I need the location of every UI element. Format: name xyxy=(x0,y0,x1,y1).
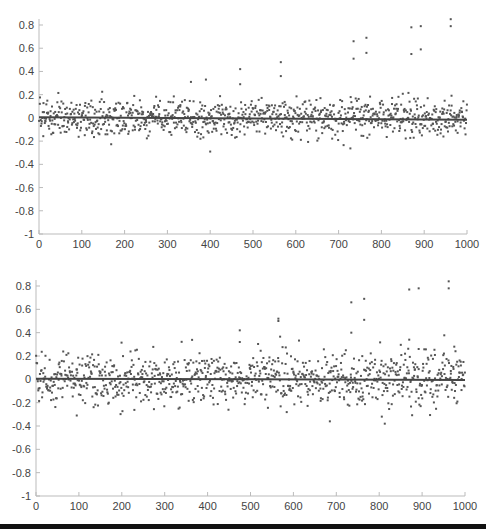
x-tick-label: 200 xyxy=(113,500,131,512)
outlier-point xyxy=(450,18,452,20)
outlier-point xyxy=(350,332,352,334)
outlier-point xyxy=(363,298,365,300)
y-tick-label: -0.4 xyxy=(12,420,31,432)
y-tick-label: 0.8 xyxy=(19,19,34,31)
data-points xyxy=(38,18,468,152)
outlier-point xyxy=(353,58,355,60)
x-tick-label: 300 xyxy=(158,238,176,250)
outlier-point xyxy=(209,151,211,153)
y-tick-label: -0.2 xyxy=(15,135,34,147)
page-bottom-border xyxy=(0,524,486,529)
outlier-point xyxy=(239,341,241,343)
y-tick-label: -1 xyxy=(21,490,31,502)
y-tick-label: -0.8 xyxy=(15,205,34,217)
x-tick-label: 600 xyxy=(284,500,302,512)
x-tick-label: 0 xyxy=(33,500,39,512)
y-tick-label: -0.6 xyxy=(15,182,34,194)
outlier-point xyxy=(329,420,331,422)
data-points xyxy=(35,280,466,424)
scatter-plot-top: 0.80.60.40.20-0.2-0.4-0.6-0.8-1010020030… xyxy=(0,0,486,262)
y-tick-label: 0.2 xyxy=(16,350,31,362)
x-tick-label: 1000 xyxy=(453,500,477,512)
y-tick-label: 0 xyxy=(28,112,34,124)
outlier-point xyxy=(410,53,412,55)
outlier-point xyxy=(365,52,367,54)
outlier-point xyxy=(76,415,78,417)
outlier-point xyxy=(353,40,355,42)
outlier-point xyxy=(420,48,422,50)
x-tick-label: 800 xyxy=(372,238,390,250)
y-tick-label: 0.2 xyxy=(19,89,34,101)
y-tick-label: -1 xyxy=(24,228,34,240)
y-tick-label: 0.4 xyxy=(16,327,31,339)
y-tick-label: 0.6 xyxy=(19,42,34,54)
outlier-point xyxy=(420,25,422,27)
outlier-point xyxy=(418,287,420,289)
x-tick-label: 300 xyxy=(156,500,174,512)
outlier-point xyxy=(363,319,365,321)
x-tick-label: 900 xyxy=(415,238,433,250)
y-tick-label: -0.6 xyxy=(12,443,31,455)
outlier-point xyxy=(410,26,412,28)
outlier-point xyxy=(384,423,386,425)
outlier-point xyxy=(205,79,207,81)
x-tick-label: 400 xyxy=(201,238,219,250)
x-tick-label: 400 xyxy=(198,500,216,512)
outlier-point xyxy=(190,81,192,83)
outlier-point xyxy=(365,37,367,39)
x-tick-label: 700 xyxy=(329,238,347,250)
y-tick-label: 0.4 xyxy=(19,65,34,77)
outlier-point xyxy=(453,346,455,348)
y-tick-label: 0.8 xyxy=(16,280,31,292)
x-tick-label: 100 xyxy=(70,500,88,512)
outlier-point xyxy=(408,289,410,291)
axes: 0.80.60.40.20-0.2-0.4-0.6-0.8-1010020030… xyxy=(12,280,477,512)
outlier-point xyxy=(280,61,282,63)
outlier-point xyxy=(277,320,279,322)
outlier-point xyxy=(280,75,282,77)
x-tick-label: 800 xyxy=(370,500,388,512)
fit-line xyxy=(36,379,465,380)
y-tick-label: -0.4 xyxy=(15,158,34,170)
x-tick-label: 900 xyxy=(413,500,431,512)
plot-canvas-top: 0.80.60.40.20-0.2-0.4-0.6-0.8-1010020030… xyxy=(0,0,486,262)
outlier-point xyxy=(450,25,452,27)
plot-canvas-bottom: 0.80.60.40.20-0.2-0.4-0.6-0.8-1010020030… xyxy=(0,262,486,524)
x-tick-label: 500 xyxy=(244,238,262,250)
outlier-point xyxy=(418,348,420,350)
x-tick-label: 200 xyxy=(115,238,133,250)
outlier-point xyxy=(448,287,450,289)
y-tick-label: 0.6 xyxy=(16,303,31,315)
y-tick-label: 0 xyxy=(25,373,31,385)
x-tick-label: 600 xyxy=(287,238,305,250)
x-tick-label: 100 xyxy=(73,238,91,250)
x-tick-label: 1000 xyxy=(455,238,479,250)
y-tick-label: -0.8 xyxy=(12,467,31,479)
scatter-plot-bottom: 0.80.60.40.20-0.2-0.4-0.6-0.8-1010020030… xyxy=(0,262,486,524)
outlier-point xyxy=(408,339,410,341)
outlier-point xyxy=(448,280,450,282)
outlier-point xyxy=(350,301,352,303)
outlier-point xyxy=(239,83,241,85)
y-tick-label: -0.2 xyxy=(12,397,31,409)
x-tick-label: 0 xyxy=(36,238,42,250)
outlier-point xyxy=(239,329,241,331)
x-tick-label: 700 xyxy=(327,500,345,512)
x-tick-label: 500 xyxy=(241,500,259,512)
outlier-point xyxy=(277,318,279,320)
outlier-point xyxy=(239,68,241,70)
